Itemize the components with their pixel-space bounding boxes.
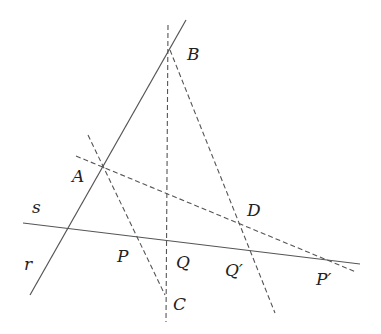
point-label-b: B bbox=[186, 44, 200, 64]
point-label-a: A bbox=[70, 166, 84, 186]
point-label-q-prime: Q′ bbox=[225, 260, 243, 280]
projective-geometry-diagram: A B C D P Q Q′ P′ s r bbox=[0, 0, 381, 334]
line-label-r: r bbox=[24, 254, 33, 274]
point-label-q: Q bbox=[176, 252, 190, 272]
line-s bbox=[23, 223, 360, 264]
point-label-p: P bbox=[116, 246, 129, 266]
line-r bbox=[30, 20, 186, 295]
dashed-line-a-c bbox=[88, 135, 165, 295]
line-label-s: s bbox=[32, 197, 41, 217]
point-label-c: C bbox=[173, 294, 186, 314]
point-label-d: D bbox=[246, 200, 261, 220]
dashed-line-b-c bbox=[166, 25, 168, 322]
point-label-p-prime: P′ bbox=[315, 269, 331, 289]
dashed-line-b-q-prime bbox=[170, 50, 275, 313]
